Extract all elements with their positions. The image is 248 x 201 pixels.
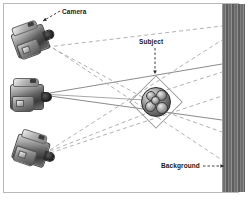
background-label: Background	[161, 162, 200, 169]
camera-setup-diagram: Camera Subject Background	[0, 0, 248, 201]
subject-label: Subject	[139, 38, 163, 45]
camera-label: Camera	[62, 8, 86, 15]
camera-leader-line	[43, 11, 60, 21]
annotation-leaders	[0, 0, 248, 201]
